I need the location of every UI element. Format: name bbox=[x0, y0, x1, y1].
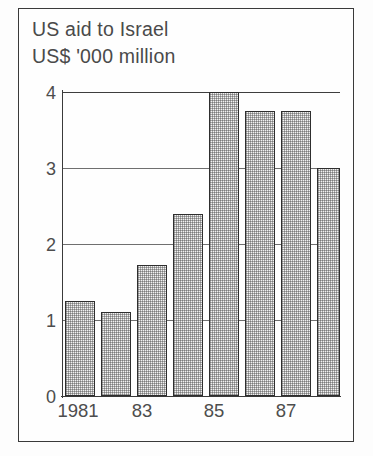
chart-title-block: US aid to Israel US$ '000 million bbox=[32, 16, 322, 70]
chart-title: US aid to Israel bbox=[32, 16, 322, 43]
y-tick-label-3: 3 bbox=[26, 160, 56, 178]
x-tick-label-85: 85 bbox=[194, 400, 234, 422]
chart-subtitle: US$ '000 million bbox=[32, 43, 322, 70]
y-tick-label-2: 2 bbox=[26, 236, 56, 254]
bar-1985 bbox=[209, 92, 239, 396]
x-tick-label-1981: 1981 bbox=[48, 400, 108, 422]
x-axis-line bbox=[61, 396, 341, 397]
y-tick-label-1: 1 bbox=[26, 312, 56, 330]
x-tick-label-87: 87 bbox=[266, 400, 306, 422]
bar-1986 bbox=[245, 111, 275, 396]
bar-1982 bbox=[101, 312, 131, 396]
bar-series bbox=[62, 92, 340, 396]
y-axis-tick-labels: 4 3 2 1 0 bbox=[22, 0, 56, 456]
x-tick-label-83: 83 bbox=[122, 400, 162, 422]
y-tick-label-4: 4 bbox=[26, 84, 56, 102]
bar-1988 bbox=[317, 168, 340, 396]
bar-1983 bbox=[137, 265, 167, 396]
bar-1984 bbox=[173, 214, 203, 396]
bar-1987 bbox=[281, 111, 311, 396]
bar-1981 bbox=[65, 301, 95, 396]
chart-figure: US aid to Israel US$ '000 million 4 3 2 … bbox=[0, 0, 373, 456]
